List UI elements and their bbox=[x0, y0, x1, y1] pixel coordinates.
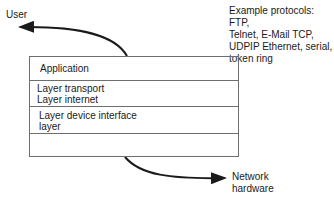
network-line: Network bbox=[232, 171, 274, 183]
layer-label: Application bbox=[40, 63, 238, 74]
protocols-line: UDPIP Ethernet, serial, bbox=[229, 41, 334, 53]
layer-label: Layer internet bbox=[37, 94, 238, 105]
layer-application: Application bbox=[30, 57, 238, 81]
layer-empty bbox=[30, 134, 238, 156]
layer-label: layer bbox=[39, 121, 238, 132]
network-arrow bbox=[125, 157, 225, 178]
protocol-stack: Application Layer transport Layer intern… bbox=[29, 56, 239, 157]
network-hardware-label: Network hardware bbox=[232, 171, 274, 195]
user-arrow bbox=[20, 27, 127, 56]
layer-label: Layer transport bbox=[37, 83, 238, 94]
network-line: hardware bbox=[232, 183, 274, 195]
protocols-line: token ring bbox=[229, 53, 334, 65]
protocols-line: Telnet, E-Mail TCP, bbox=[229, 29, 334, 41]
layer-label: Layer device interface bbox=[39, 110, 238, 121]
layer-transport-internet: Layer transport Layer internet bbox=[30, 81, 238, 107]
user-label: User bbox=[6, 9, 27, 21]
protocols-note: Example protocols: FTP, Telnet, E-Mail T… bbox=[229, 5, 334, 65]
layer-device-interface: Layer device interface layer bbox=[30, 107, 238, 134]
protocols-line: Example protocols: FTP, bbox=[229, 5, 334, 29]
